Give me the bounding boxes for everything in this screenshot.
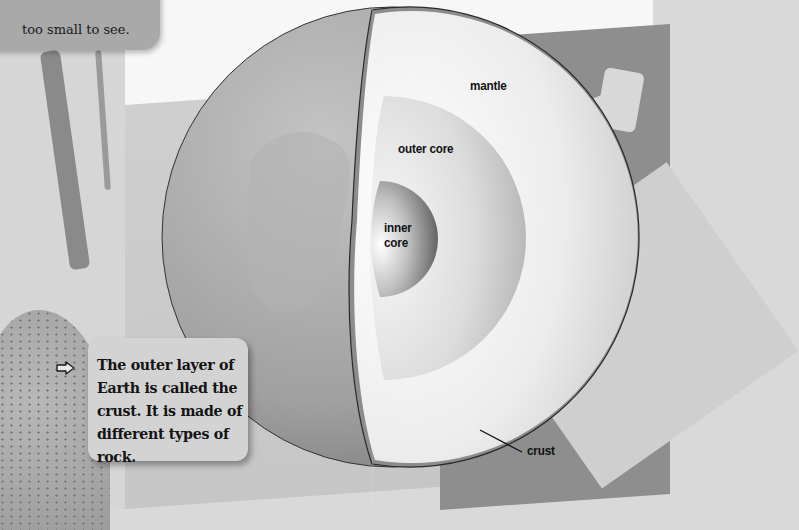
arrow-right-icon bbox=[56, 361, 76, 375]
label-inner-core-line2: core bbox=[384, 235, 408, 250]
label-crust: crust bbox=[527, 443, 555, 458]
label-mantle: mantle bbox=[470, 78, 507, 93]
label-inner-core-line1: inner bbox=[384, 220, 412, 235]
label-outer-core: outer core bbox=[398, 141, 453, 156]
info-box-text: The outer layer of Earth is called the c… bbox=[97, 354, 247, 469]
label-inner-core: inner core bbox=[384, 220, 412, 250]
